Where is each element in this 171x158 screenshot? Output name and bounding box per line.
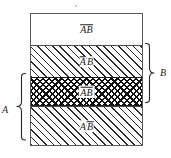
venn-band-diagram: AB AB AB AB B A — [0, 0, 171, 158]
plain-term: A — [79, 120, 86, 132]
overbar-term: AB — [80, 86, 94, 98]
brace-b — [143, 42, 157, 104]
brace-label-a: A — [2, 105, 8, 115]
overbar-term: A — [79, 56, 86, 68]
brace-label-b: B — [160, 68, 166, 78]
universe-rectangle: AB AB AB AB — [30, 13, 143, 146]
region-band-3: AB — [31, 77, 142, 106]
brace-a — [14, 72, 28, 142]
overbar-term: AB — [80, 24, 94, 36]
region-band-2: AB — [31, 45, 142, 77]
plain-term: B — [87, 56, 94, 68]
region-label-1: AB — [80, 24, 94, 36]
region-label-4: AB — [79, 120, 94, 132]
scan-speck — [75, 5, 77, 7]
overbar-term: B — [87, 120, 94, 132]
region-band-4: AB — [31, 106, 142, 145]
region-band-1: AB — [31, 14, 142, 45]
region-label-3: AB — [78, 85, 95, 98]
region-label-2: AB — [79, 56, 94, 68]
